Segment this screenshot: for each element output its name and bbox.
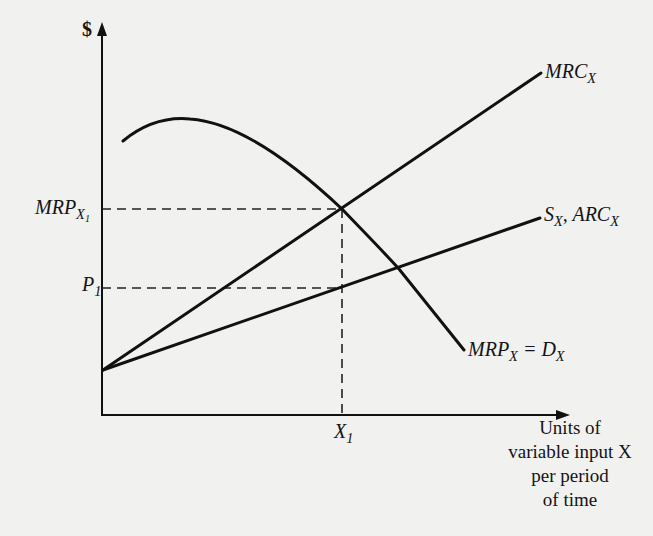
tick-label-mrp-x1: MRPX1 [35,196,90,219]
x-axis-label: Units of variable input X per period of … [470,416,653,512]
mrc-curve [103,73,541,370]
y-axis-label: $ [82,18,92,41]
tick-base: P [82,273,94,295]
tick-base: X [334,420,346,442]
dashed-guides [102,209,342,415]
curve-label-mrc: MRCX [545,60,596,83]
curve-label-supply-arc: SX, ARCX [544,203,619,226]
x-axis-label-line: of time [470,488,653,512]
y-axis-arrow-icon [97,22,107,36]
curves [103,73,541,370]
tick-sub: X1 [76,206,90,222]
tick-base: MRP [35,196,76,218]
tick-label-p1: P1 [82,273,101,296]
tick-sub: 1 [346,430,353,446]
tick-label-x1: X1 [334,420,353,443]
curve-label-mrp-demand: MRPX = DX [468,338,565,361]
tick-sub: 1 [94,283,101,299]
mrp-demand-curve [123,119,464,350]
x-axis-label-line: Units of [470,416,653,440]
x-axis-label-line: per period [470,464,653,488]
x-axis-label-line: variable input X [470,440,653,464]
